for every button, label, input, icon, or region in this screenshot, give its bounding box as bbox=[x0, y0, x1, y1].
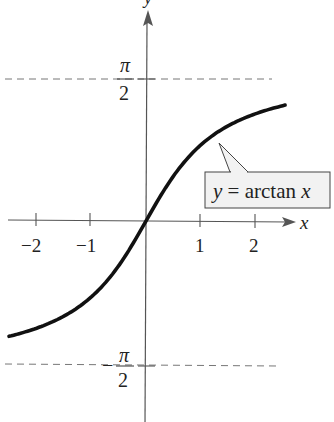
svg-text:2: 2 bbox=[118, 369, 128, 391]
svg-text:π: π bbox=[120, 54, 131, 76]
y-tick-label-pi-over-2: π 2 bbox=[117, 54, 134, 104]
y-axis-arrow-icon bbox=[143, 10, 153, 26]
x-axis bbox=[8, 220, 290, 222]
x-axis-label: x bbox=[299, 212, 309, 233]
x-tick-labels: −2 −1 1 2 bbox=[21, 235, 259, 256]
svg-text:2: 2 bbox=[119, 82, 129, 104]
callout-label: y = arctan x bbox=[211, 179, 311, 203]
svg-text:2: 2 bbox=[249, 235, 259, 256]
y-tick-label-neg-pi-over-2: − π 2 bbox=[102, 344, 134, 391]
svg-text:−1: −1 bbox=[76, 235, 96, 256]
svg-text:1: 1 bbox=[195, 235, 205, 256]
svg-text:π: π bbox=[119, 344, 130, 366]
svg-text:−2: −2 bbox=[21, 235, 41, 256]
y-axis-label: y bbox=[142, 0, 152, 8]
callout-pointer bbox=[219, 143, 248, 172]
svg-text:−: − bbox=[102, 354, 113, 376]
arctan-graph: x y −2 −1 1 2 π 2 − π 2 y = arctan x bbox=[0, 0, 334, 422]
